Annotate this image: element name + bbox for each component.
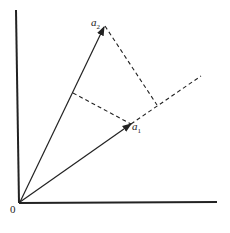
label-a1: a1 <box>132 120 141 135</box>
y-axis <box>16 10 19 203</box>
a2-projection-dashed <box>105 26 157 105</box>
vector-projection-diagram <box>0 0 230 233</box>
origin-label: 0 <box>10 203 16 215</box>
vector-a2 <box>20 27 104 202</box>
vector-a1 <box>20 124 131 202</box>
a1-extension-dashed <box>131 76 201 124</box>
x-axis <box>19 202 217 203</box>
a1-projection-dashed <box>73 93 131 124</box>
label-a2: a2 <box>91 16 100 31</box>
